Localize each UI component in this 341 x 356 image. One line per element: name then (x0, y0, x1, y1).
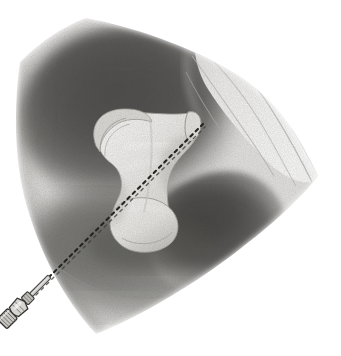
anatomical-illustration-figure: Anatomical surgical illustration Pencil … (0, 0, 341, 356)
illustration-canvas (0, 0, 341, 356)
